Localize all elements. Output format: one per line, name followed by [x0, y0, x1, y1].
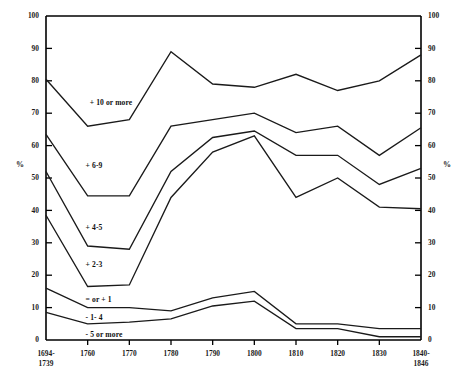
axis-titles: %%	[16, 160, 451, 169]
y-tick-label-left: 0	[35, 335, 39, 344]
y-tick-label-left: 70	[32, 108, 40, 117]
y-axis-left-labels: 0102030405060708090100	[28, 11, 39, 344]
series-label: + 10 or more	[90, 98, 133, 107]
x-tick-label: 1840-1846	[412, 349, 430, 368]
y-tick-label-right: 50	[428, 173, 436, 182]
series-label: - 1- 4	[86, 313, 103, 322]
series-label: + 4-5	[86, 223, 103, 232]
y-tick-label-right: 0	[428, 335, 432, 344]
x-tick-label: 1770	[122, 349, 137, 358]
line-chart: 0102030405060708090100 01020304050607080…	[0, 0, 468, 392]
y-tick-label-right: 100	[428, 11, 439, 20]
x-tick-label: 1780	[164, 349, 179, 358]
y-tick-label-left: 60	[32, 141, 40, 150]
series-label: - 5 or more	[86, 330, 123, 339]
y-tick-label-left: 50	[32, 173, 40, 182]
y-tick-label-left: 40	[32, 206, 40, 215]
y-tick-label-left: 20	[32, 270, 40, 279]
x-tick-label: 1694-1739	[37, 349, 55, 368]
y-tick-label-left: 10	[32, 303, 40, 312]
y-tick-label-right: 10	[428, 303, 436, 312]
x-tick-label: 1830	[372, 349, 387, 358]
y-tick-label-left: 30	[32, 238, 40, 247]
y-tick-label-left: 80	[32, 76, 40, 85]
x-tick-label: 1810	[289, 349, 304, 358]
y-tick-label-right: 30	[428, 238, 436, 247]
series-line	[46, 52, 421, 127]
y-tick-label-right: 40	[428, 206, 436, 215]
x-axis-labels: 1694-17391760177017801790180018101820183…	[37, 349, 430, 368]
x-tick-label: 1790	[205, 349, 220, 358]
y-tick-label-right: 60	[428, 141, 436, 150]
series-inline-labels: + 10 or more+ 6-9+ 4-5+ 2-3= or + 1- 1- …	[86, 98, 133, 338]
chart-container: 0102030405060708090100 01020304050607080…	[0, 0, 468, 392]
y-tick-label-right: 70	[428, 108, 436, 117]
y-tick-label-left: 100	[28, 11, 39, 20]
y-axis-right-ticks	[415, 48, 421, 307]
y-axis-right-labels: 0102030405060708090100	[428, 11, 439, 344]
series-label: = or + 1	[86, 295, 112, 304]
y-axis-title-right: %	[443, 160, 451, 169]
x-tick-label: 1760	[80, 349, 95, 358]
y-tick-label-right: 80	[428, 76, 436, 85]
series-line	[46, 113, 421, 196]
x-tick-label: 1820	[330, 349, 345, 358]
y-axis-title-left: %	[16, 160, 24, 169]
y-tick-label-right: 90	[428, 44, 436, 53]
series-label: + 2-3	[86, 260, 103, 269]
x-tick-label: 1800	[247, 349, 262, 358]
series-label: + 6-9	[86, 161, 103, 170]
y-tick-label-left: 90	[32, 44, 40, 53]
y-tick-label-right: 20	[428, 270, 436, 279]
plot-frame	[46, 16, 421, 340]
